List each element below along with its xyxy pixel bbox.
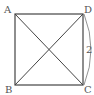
vertex-label-D: D bbox=[84, 4, 92, 15]
vertex-label-B: B bbox=[5, 84, 12, 95]
square-diagram: A D B C 2 bbox=[0, 0, 94, 95]
side-length-label: 2 bbox=[86, 44, 92, 55]
vertex-label-A: A bbox=[3, 4, 12, 15]
vertex-label-C: C bbox=[84, 84, 92, 95]
